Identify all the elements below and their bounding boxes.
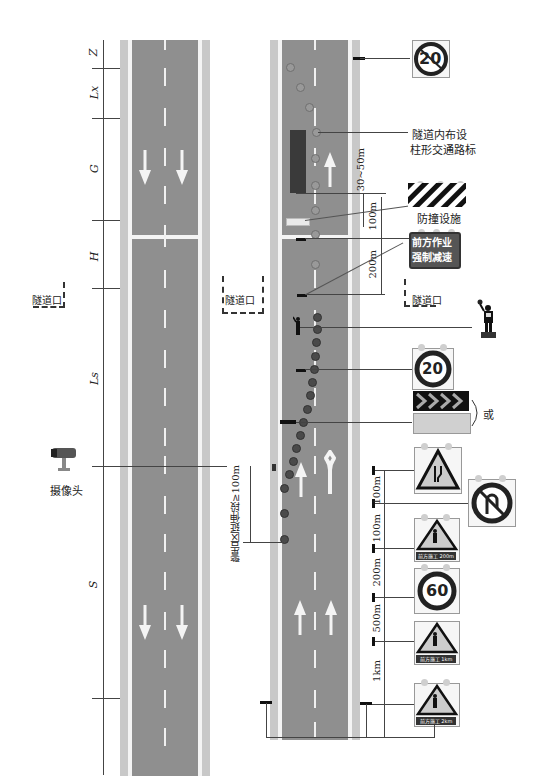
up-arrow-icon <box>325 600 337 635</box>
down-arrow-icon <box>139 150 151 185</box>
dist-1km: 1km <box>371 660 382 682</box>
dim-label-ls: Ls <box>88 372 101 385</box>
flagman-small-icon <box>270 462 278 472</box>
work-ahead-200m-plate: 前方施工 200m <box>416 552 456 560</box>
work-ahead-2km-plate: 前方施工 2km <box>416 717 456 725</box>
speed-limit-20-sign: 20 <box>412 348 454 390</box>
crash-barrier-label: 防撞设施 <box>417 210 461 226</box>
speed-limit-60-sign: 60 <box>414 568 460 614</box>
flagman-small-icon <box>293 316 303 336</box>
no-u-turn-sign <box>468 479 516 527</box>
down-arrow-icon <box>176 605 188 640</box>
dist-100m-b: 100m <box>371 476 382 505</box>
sign-post-marker <box>372 544 375 553</box>
dim-label-lx: Lx <box>88 86 101 100</box>
dim-label-h: H <box>88 252 101 262</box>
tunnel-portal-label: 隧道口 <box>412 292 442 307</box>
post-delineator-label-1: 隧道内布设 <box>412 126 467 142</box>
warning-extension-label: 警告区延伸段≥100m <box>228 465 243 562</box>
dim-label-z: Z <box>87 49 100 57</box>
dist-100m-a: 100m <box>367 202 378 231</box>
dist-200m-a: 200m <box>367 250 378 279</box>
down-arrow-icon <box>176 150 188 185</box>
work-ahead-slow-line2: 强制减速 <box>412 249 452 264</box>
work-ahead-1km-sign: 前方施工 1km <box>414 621 460 665</box>
dist-200m-b: 200m <box>371 558 382 587</box>
camera-label: 摄像头 <box>50 482 83 498</box>
dim-label-g: G <box>88 164 101 173</box>
tunnel-portal-label: 隧道口 <box>32 292 62 307</box>
up-arrow-icon <box>295 462 307 497</box>
post-delineator-label-2: 柱形交通路标 <box>410 141 476 157</box>
work-vehicle <box>290 130 306 193</box>
speed-limit-end-value: 20 <box>419 49 441 68</box>
work-ahead-1km-plate: 前方施工 1km <box>416 655 456 663</box>
dist-30-50m: 30~50m <box>355 148 366 191</box>
speed-limit-end-sign: 20 <box>412 40 450 78</box>
sign-post-marker <box>372 593 375 602</box>
curved-double-arrow-icon <box>470 398 482 428</box>
sign-post-marker <box>372 637 375 646</box>
road-narrows-sign <box>414 447 462 494</box>
up-arrow-icon <box>324 152 336 187</box>
dist-100m-c: 100m <box>371 514 382 543</box>
camera-icon <box>50 446 78 476</box>
down-arrow-icon <box>139 605 151 640</box>
or-label: 或 <box>483 406 494 422</box>
dim-label-s: S <box>87 581 100 589</box>
flagman-icon <box>474 299 502 339</box>
work-ahead-slow-line1: 前方作业 <box>412 234 452 249</box>
arrow-board-marker <box>280 420 296 424</box>
up-arrow-icon <box>294 600 306 635</box>
speed-limit-60-value: 60 <box>426 581 448 600</box>
merge-left-arrow-icon <box>322 450 338 494</box>
work-ahead-200m-sign: 前方施工 200m <box>414 518 460 562</box>
tunnel-portal-label: 隧道口 <box>225 292 255 307</box>
sign-post-marker <box>372 466 375 475</box>
work-ahead-2km-sign: 前方施工 2km <box>414 683 460 727</box>
dist-500m: 500m <box>371 604 382 633</box>
speed-limit-20-value: 20 <box>422 360 443 378</box>
